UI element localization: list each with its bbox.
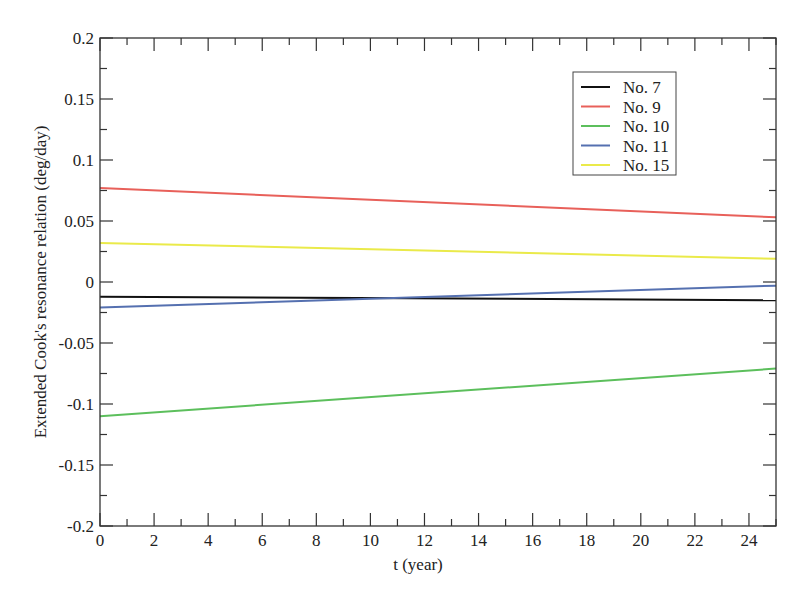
legend-label: No. 15 — [623, 156, 669, 175]
x-tick-label: 12 — [416, 531, 433, 550]
y-tick-label: -0.15 — [59, 456, 94, 475]
line-chart: 024681012141618202224 0.20.150.10.050-0.… — [0, 0, 805, 603]
x-tick-label: 8 — [312, 531, 321, 550]
y-tick-label: 0.1 — [73, 151, 94, 170]
y-tick-label: 0.05 — [64, 212, 94, 231]
x-tick-label: 24 — [740, 531, 758, 550]
y-tick-label: -0.1 — [67, 395, 94, 414]
y-tick-label: -0.2 — [67, 517, 94, 536]
legend: No. 7No. 9No. 10No. 11No. 15 — [573, 72, 676, 175]
legend-label: No. 10 — [623, 117, 669, 136]
plot-lines — [100, 188, 776, 416]
y-tick-label: -0.05 — [59, 334, 94, 353]
x-tick-label: 6 — [258, 531, 267, 550]
series-line-no-10 — [100, 369, 776, 417]
legend-label: No. 7 — [623, 78, 661, 97]
x-tick-label: 22 — [686, 531, 703, 550]
x-tick-label: 14 — [470, 531, 488, 550]
y-tick-label: 0.2 — [73, 29, 94, 48]
series-line-no-15 — [100, 243, 776, 259]
x-tick-label: 16 — [524, 531, 541, 550]
x-tick-label: 10 — [362, 531, 379, 550]
series-line-no-9 — [100, 188, 776, 217]
x-tick-label: 0 — [96, 531, 105, 550]
x-tick-label: 18 — [578, 531, 595, 550]
y-axis-title: Extended Cook's resonance relation (deg/… — [31, 126, 50, 439]
x-axis-title: t (year) — [393, 555, 443, 574]
y-tick-label: 0.15 — [64, 90, 94, 109]
x-tick-label: 4 — [204, 531, 213, 550]
y-tick-label: 0 — [86, 273, 95, 292]
legend-label: No. 11 — [623, 137, 669, 156]
x-tick-label: 20 — [632, 531, 649, 550]
legend-label: No. 9 — [623, 98, 661, 117]
x-tick-label: 2 — [150, 531, 159, 550]
